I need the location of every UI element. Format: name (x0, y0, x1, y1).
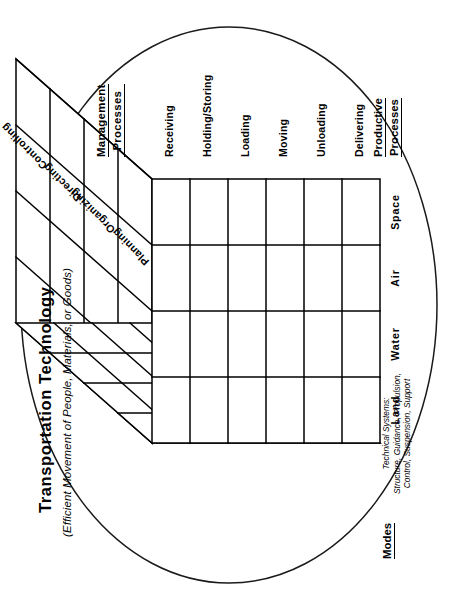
transportation-technology-diagram: Transportation Technology (Efficient Mov… (0, 0, 451, 609)
productive-label-moving: Moving (278, 119, 290, 157)
technical-systems-note-line-1: Technical Systems: (381, 373, 392, 494)
productive-heading-line-1: Productive (372, 98, 386, 157)
figure-subtitle: (Efficient Movement of People, Materials… (61, 268, 74, 537)
mode-label-water: Water (390, 311, 402, 377)
productive-label-receiving: Receiving (164, 105, 176, 157)
productive-label-delivering: Delivering (354, 104, 366, 157)
modes-heading-label: Modes (381, 523, 395, 559)
mode-label-air: Air (390, 245, 402, 311)
technical-systems-note-line-2: Structure, Guidance, Propulsion, (392, 373, 403, 494)
technical-systems-note: Technical Systems: Structure, Guidance, … (381, 373, 413, 494)
management-heading-line-1: Management (95, 84, 109, 157)
productive-label-loading: Loading (240, 114, 252, 157)
productive-processes-heading: Productive Processes (372, 98, 404, 157)
management-processes-heading: Management Processes (95, 84, 127, 157)
mode-label-space: Space (390, 179, 402, 245)
modes-heading: Modes (381, 523, 395, 559)
technical-systems-note-line-3: Control, Suspension, Support (402, 373, 413, 494)
rotated-diagram-wrapper: Transportation Technology (Efficient Mov… (0, 0, 451, 609)
management-heading-line-2: Processes (111, 84, 125, 157)
productive-heading-line-2: Processes (388, 98, 402, 157)
figure-canvas: Transportation Technology (Efficient Mov… (0, 0, 451, 609)
productive-label-unloading: Unloading (316, 103, 328, 157)
figure-title: Transportation Technology (36, 287, 54, 513)
productive-label-holding-storing: Holding/Storing (202, 75, 214, 157)
